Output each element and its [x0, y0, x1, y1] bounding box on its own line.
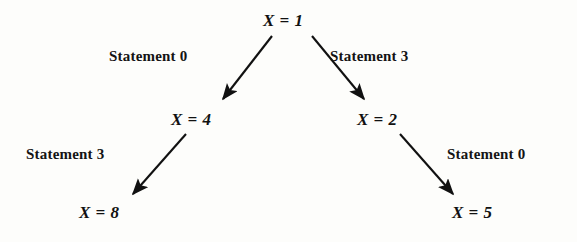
edge-root-to-left — [223, 36, 272, 99]
edge-root-to-right — [312, 36, 364, 99]
tree-node-right-leaf: X = 5 — [452, 203, 493, 223]
node-label: X = 2 — [357, 110, 398, 129]
tree-node-left-leaf: X = 8 — [79, 203, 120, 223]
tree-node-right: X = 2 — [357, 110, 398, 130]
node-label: X = 8 — [79, 203, 120, 222]
node-label: X = 4 — [171, 110, 212, 129]
node-label: X = 5 — [452, 203, 493, 222]
edge-left-to-leftleaf — [133, 134, 186, 194]
node-label: X = 1 — [263, 11, 304, 30]
edge-label-root-to-left: Statement 0 — [109, 48, 187, 65]
edge-label-left-to-leftleaf: Statement 3 — [26, 146, 104, 163]
tree-node-root: X = 1 — [263, 11, 304, 31]
edge-label-root-to-right: Statement 3 — [330, 48, 408, 65]
edge-label-right-to-rightleaf: Statement 0 — [447, 146, 525, 163]
tree-node-left: X = 4 — [171, 110, 212, 130]
edge-right-to-rightleaf — [400, 134, 453, 194]
execution-tree-diagram: X = 1 X = 4 X = 2 X = 8 X = 5 Statement … — [0, 0, 577, 242]
